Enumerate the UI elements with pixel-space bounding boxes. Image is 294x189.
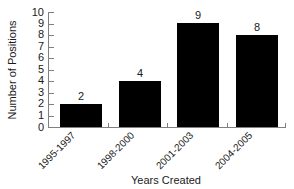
bar-chart: Number of Positions 10 9 8 7 6 5 4 3 2 1… [0,0,294,189]
bar-2001-2003 [177,23,219,127]
bar-1998-2000 [119,81,161,127]
y-tick-label-0: 0 [38,121,44,133]
y-tick-label-1: 1 [38,109,44,121]
y-tick-label-2: 2 [38,97,44,109]
value-label-1995-1997: 2 [78,90,84,102]
bar-2004-2005 [236,35,278,127]
value-label-2004-2005: 8 [254,21,260,33]
value-label-2001-2003: 9 [195,9,201,21]
y-tick-label-6: 6 [38,51,44,63]
y-tick-label-8: 8 [38,28,44,40]
chart-canvas: Number of Positions 10 9 8 7 6 5 4 3 2 1… [0,0,294,189]
value-label-1998-2000: 4 [137,67,143,79]
bar-1995-1997 [60,104,102,127]
x-axis-title: Years Created [131,174,201,186]
y-axis-title: Number of Positions [6,20,18,120]
y-tick-label-4: 4 [38,74,44,86]
